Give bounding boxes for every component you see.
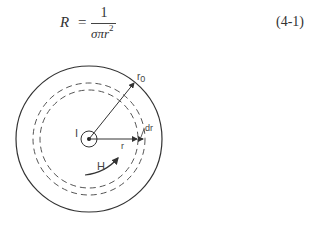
shell-thickness-label: dr <box>145 123 153 133</box>
conductor-cross-section-figure: I r0 r dr H <box>0 55 317 229</box>
fraction-numerator: 1 <box>92 5 116 21</box>
equation-lhs: R <box>60 14 69 31</box>
dr-leader <box>141 129 144 137</box>
equals-sign: = <box>78 14 86 31</box>
radius-label: r <box>121 141 124 151</box>
denominator-exponent: 2 <box>109 23 114 33</box>
current-label: I <box>75 127 78 139</box>
equation-block: R = 1 σπr2 (4-1) <box>0 0 317 55</box>
outer-radius-label: r0 <box>137 71 145 84</box>
equation-number: (4-1) <box>276 14 304 30</box>
outer-radius-arrow <box>89 83 134 139</box>
outer-radius-label-sub: 0 <box>140 74 145 84</box>
field-label: H <box>97 160 105 172</box>
fraction-denominator: σπr2 <box>91 25 113 42</box>
denominator-base: σπr <box>91 26 109 41</box>
